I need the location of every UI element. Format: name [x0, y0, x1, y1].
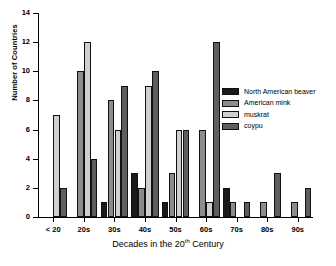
x-tick-50s: [176, 218, 177, 222]
x-tick-label: 90s: [291, 225, 304, 234]
bar: [260, 202, 267, 217]
y-tick-label: 2: [26, 183, 30, 192]
bar: [145, 86, 152, 217]
legend-label: North American beaver: [244, 88, 316, 96]
bar: [60, 188, 67, 217]
bar: [206, 202, 213, 217]
bar: [121, 86, 128, 217]
bar: [115, 130, 122, 217]
y-tick-0: 0: [33, 217, 38, 218]
x-axis-title-prefix: Decades in the 20: [112, 239, 185, 249]
legend-label: coypu: [244, 122, 263, 130]
bar: [169, 173, 176, 217]
bar-chart-figure: Number of Countries 02468101214 < 2020s3…: [0, 0, 336, 266]
chart-legend: North American beaverAmerican minkmuskra…: [222, 86, 330, 132]
x-tick-label: 60s: [200, 225, 213, 234]
y-tick-8: 8: [33, 100, 38, 101]
bar: [244, 202, 251, 217]
legend-swatch-icon: [222, 88, 239, 95]
y-tick-4: 4: [33, 159, 38, 160]
bar: [213, 42, 220, 217]
y-tick-label: 12: [22, 37, 30, 46]
x-tick-label: 40s: [139, 225, 152, 234]
y-tick-10: 10: [33, 71, 38, 72]
legend-swatch-icon: [222, 111, 239, 118]
legend-item: American mink: [222, 98, 330, 109]
y-tick-14: 14: [33, 13, 38, 14]
legend-item: North American beaver: [222, 86, 330, 97]
bar: [101, 202, 108, 217]
x-tick-label: 20s: [78, 225, 91, 234]
legend-label: muskrat: [244, 111, 269, 119]
bar: [152, 71, 159, 217]
x-axis-title-superscript: th: [185, 238, 190, 244]
bar: [183, 130, 190, 217]
y-tick-label: 4: [26, 154, 30, 163]
x-tick-90s: [298, 218, 299, 222]
y-tick-label: 6: [26, 125, 30, 134]
x-tick-70s: [237, 218, 238, 222]
bar: [223, 188, 230, 217]
x-axis-title: Decades in the 20th Century: [0, 238, 336, 249]
legend-swatch-icon: [222, 123, 239, 130]
bar: [84, 42, 91, 217]
bar: [176, 130, 183, 217]
x-tick-label: 50s: [169, 225, 182, 234]
legend-label: American mink: [244, 99, 290, 107]
bar: [131, 173, 138, 217]
x-tick-20s: [84, 218, 85, 222]
y-tick-label: 14: [22, 8, 30, 17]
y-tick-6: 6: [33, 130, 38, 131]
bar: [138, 188, 145, 217]
x-tick-40s: [145, 218, 146, 222]
x-tick-< 20: [53, 218, 54, 222]
bar: [291, 202, 298, 217]
x-tick-80s: [267, 218, 268, 222]
bar: [53, 115, 60, 217]
legend-item: muskrat: [222, 109, 330, 120]
bar: [199, 130, 206, 217]
bar: [77, 71, 84, 217]
bar: [91, 159, 98, 217]
legend-swatch-icon: [222, 100, 239, 107]
bar: [230, 202, 237, 217]
x-axis-title-suffix: Century: [192, 239, 224, 249]
legend-item: coypu: [222, 121, 330, 132]
bar: [305, 188, 312, 217]
bar: [162, 202, 169, 217]
y-tick-2: 2: [33, 188, 38, 189]
x-tick-label: 30s: [108, 225, 121, 234]
x-tick-label: 70s: [230, 225, 243, 234]
y-tick-label: 10: [22, 66, 30, 75]
y-tick-label: 8: [26, 95, 30, 104]
y-tick-label: 0: [26, 212, 30, 221]
bar: [274, 173, 281, 217]
x-tick-label: 80s: [261, 225, 274, 234]
y-tick-12: 12: [33, 42, 38, 43]
y-axis-title: Number of Countries: [10, 0, 19, 128]
x-tick-30s: [114, 218, 115, 222]
x-tick-60s: [206, 218, 207, 222]
bar: [108, 100, 115, 217]
y-axis-line: [38, 13, 39, 218]
x-tick-label: < 20: [46, 225, 61, 234]
